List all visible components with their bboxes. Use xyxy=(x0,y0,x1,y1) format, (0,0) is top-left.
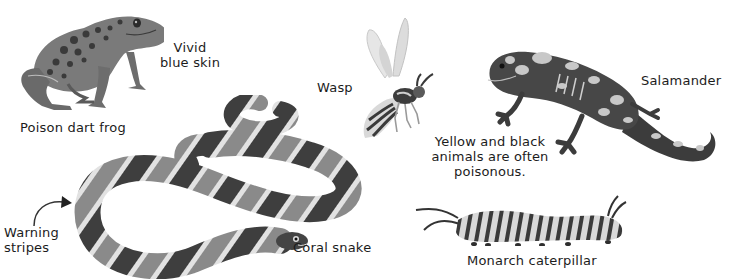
wasp-label: Wasp xyxy=(317,80,353,95)
snake-callout-line1: Warning xyxy=(4,225,59,240)
poison-note: Yellow and black animals are often poiso… xyxy=(410,134,570,179)
note-line2: animals are often xyxy=(410,149,570,164)
frog-callout-line2: blue skin xyxy=(150,55,230,70)
frog-callout: Vivid blue skin xyxy=(150,40,230,70)
note-line3: poisonous. xyxy=(410,164,570,179)
caterpillar-label: Monarch caterpillar xyxy=(467,253,597,268)
frog-callout-line1: Vivid xyxy=(150,40,230,55)
salamander-label: Salamander xyxy=(641,73,721,88)
snake-label: Coral snake xyxy=(293,240,371,255)
monarch-caterpillar-illustration xyxy=(412,190,632,246)
snake-callout: Warning stripes xyxy=(4,225,59,255)
snake-callout-line2: stripes xyxy=(4,240,59,255)
curved-arrow-icon xyxy=(28,190,78,230)
note-line1: Yellow and black xyxy=(410,134,570,149)
